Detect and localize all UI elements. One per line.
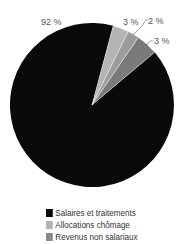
- legend-swatch: [46, 221, 53, 229]
- pie-chart: 92 % 3 % 2 % 3 %: [0, 0, 176, 200]
- label-2: 2 %: [148, 16, 164, 26]
- label-92: 92 %: [41, 17, 62, 27]
- legend-swatch: [46, 209, 53, 217]
- pie-slices: [10, 23, 174, 187]
- label-3b: 3 %: [154, 36, 170, 46]
- label-3a: 3 %: [123, 17, 139, 27]
- legend-label: Allocations chômage: [55, 219, 130, 231]
- legend-swatch: [46, 233, 53, 241]
- legend-item: Allocations chômage: [46, 219, 138, 231]
- legend-item: Revenus non salariaux: [46, 231, 138, 243]
- legend-label: Revenus non salariaux: [55, 231, 137, 243]
- legend: Salaires et traitements Allocations chôm…: [46, 207, 138, 243]
- legend-label: Salaires et traitements: [55, 207, 135, 219]
- legend-item: Salaires et traitements: [46, 207, 138, 219]
